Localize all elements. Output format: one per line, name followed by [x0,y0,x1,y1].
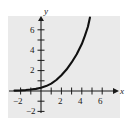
chart-canvas [0,0,128,127]
x-tick-label-neg2: −2 [13,97,23,106]
x-tick-label-6: 6 [98,97,103,106]
y-tick-label-4: 4 [30,46,35,55]
x-tick-label-2: 2 [58,97,63,106]
y-tick-label-neg2: −2 [26,107,36,116]
exponential-function-graph: −2 2 4 6 6 4 2 −2 y x [0,0,128,127]
y-axis-arrow-icon [38,16,44,21]
x-tick-label-4: 4 [78,97,83,106]
x-axis-label: x [120,87,124,96]
y-axis-label: y [44,7,48,16]
y-tick-label-2: 2 [30,66,35,75]
x-axis-arrow-icon [113,88,119,94]
exponential-curve [14,18,89,91]
y-tick-label-6: 6 [30,26,35,35]
